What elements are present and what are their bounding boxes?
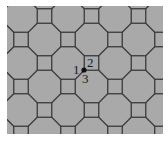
vertex-label-3: 3 — [82, 71, 89, 86]
tiling-diagram: 1 2 3 — [0, 0, 168, 144]
vertex-label-2: 2 — [87, 55, 94, 70]
vertex-label-1: 1 — [73, 62, 80, 77]
